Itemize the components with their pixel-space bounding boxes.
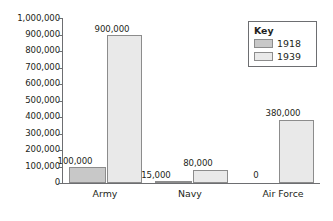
y-axis-tick-label: 200,000 bbox=[0, 145, 60, 154]
x-axis-category-label-army: Army bbox=[75, 188, 135, 199]
legend-swatch-1918-icon bbox=[254, 39, 273, 48]
legend-label-1918: 1918 bbox=[277, 38, 301, 49]
legend-title: Key bbox=[254, 25, 311, 36]
bar-army-1918 bbox=[69, 167, 106, 184]
x-axis-category-label-navy: Navy bbox=[160, 188, 220, 199]
bar-value-label-army-1918: 100,000 bbox=[50, 157, 100, 166]
bar-chart: 1,000,000 900,000 800,000 700,000 600,00… bbox=[0, 0, 333, 221]
bar-army-1939 bbox=[107, 35, 142, 184]
y-axis-tick-label: 700,000 bbox=[0, 63, 60, 72]
legend: Key 1918 1939 bbox=[248, 21, 317, 67]
y-axis-tick-label: 300,000 bbox=[0, 129, 60, 138]
legend-entry-1918: 1918 bbox=[254, 38, 311, 49]
y-axis-tick-label: 600,000 bbox=[0, 79, 60, 88]
bar-value-label-airforce-1918: 0 bbox=[246, 171, 266, 180]
y-axis-tick-label: 0 bbox=[0, 178, 60, 187]
x-axis-category-label-air-force: Air Force bbox=[248, 188, 318, 199]
bar-value-label-navy-1939: 80,000 bbox=[168, 159, 228, 168]
x-axis-line bbox=[62, 183, 320, 184]
y-axis-tick-label: 1,000,000 bbox=[0, 14, 60, 23]
bar-navy-1918 bbox=[155, 181, 192, 184]
legend-swatch-1939-icon bbox=[254, 52, 273, 61]
legend-label-1939: 1939 bbox=[277, 51, 301, 62]
y-axis-tick-label: 900,000 bbox=[0, 30, 60, 39]
y-axis-tick-label: 500,000 bbox=[0, 96, 60, 105]
bar-value-label-airforce-1939: 380,000 bbox=[253, 109, 313, 118]
bar-airforce-1939 bbox=[279, 120, 314, 183]
bar-value-label-army-1939: 900,000 bbox=[82, 25, 142, 34]
y-axis-tick-label: 400,000 bbox=[0, 112, 60, 121]
legend-entry-1939: 1939 bbox=[254, 51, 311, 62]
bar-navy-1939 bbox=[193, 170, 228, 183]
y-axis-tick-label: 800,000 bbox=[0, 46, 60, 55]
bar-value-label-navy-1918: 15,000 bbox=[131, 171, 181, 180]
